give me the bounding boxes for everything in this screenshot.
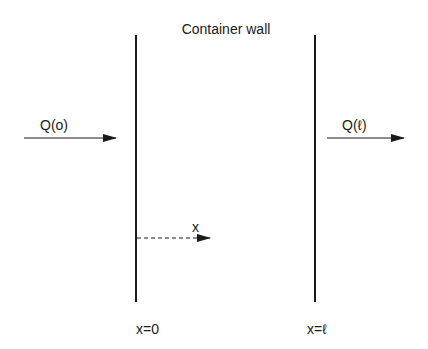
outflow-label: Q(ℓ): [342, 117, 367, 133]
diagram-title: Container wall: [182, 21, 271, 37]
x-zero-label: x=0: [136, 321, 159, 337]
inflow-label: Q(o): [40, 117, 68, 133]
x-axis-label: x: [192, 219, 199, 235]
x-ell-label: x=ℓ: [307, 321, 327, 337]
container-wall-diagram: Container wall Q(o) Q(ℓ) x x=0 x=ℓ: [0, 0, 428, 349]
